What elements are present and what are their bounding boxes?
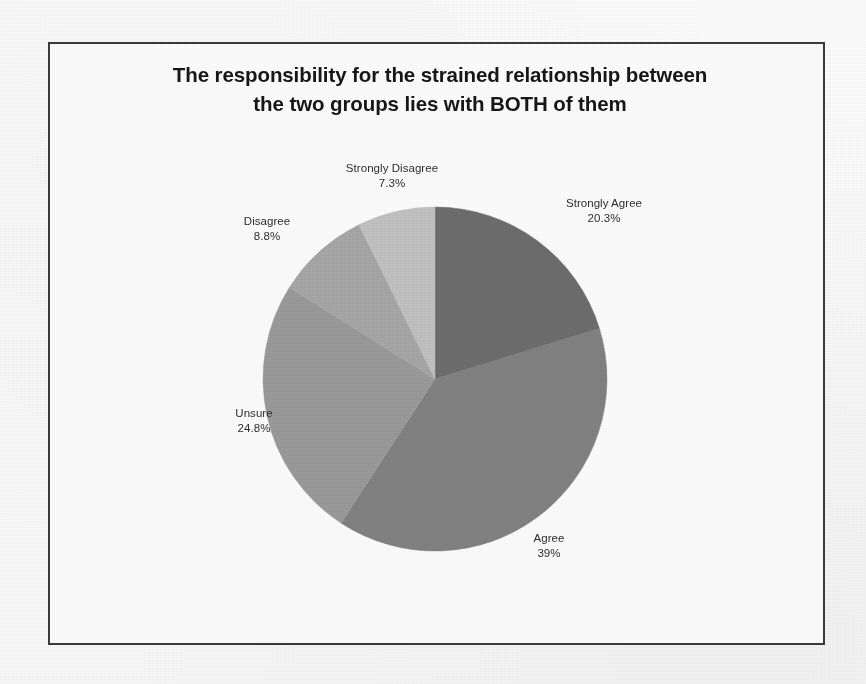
pie-label-strongly-agree-name: Strongly Agree bbox=[539, 196, 669, 211]
pie-label-strongly-disagree: Strongly Disagree 7.3% bbox=[312, 161, 472, 191]
pie-label-unsure: Unsure 24.8% bbox=[189, 406, 319, 436]
chart-frame: The responsibility for the strained rela… bbox=[48, 42, 825, 645]
pie-label-agree-value: 39% bbox=[484, 546, 614, 561]
pie-label-agree: Agree 39% bbox=[484, 531, 614, 561]
pie-plot-area: Strongly Agree 20.3% Agree 39% Unsure 24… bbox=[50, 44, 827, 647]
pie-label-disagree: Disagree 8.8% bbox=[202, 214, 332, 244]
pie-label-agree-name: Agree bbox=[484, 531, 614, 546]
pie-label-unsure-name: Unsure bbox=[189, 406, 319, 421]
pie-label-unsure-value: 24.8% bbox=[189, 421, 319, 436]
chart-page: The responsibility for the strained rela… bbox=[0, 0, 866, 684]
pie-label-strongly-agree: Strongly Agree 20.3% bbox=[539, 196, 669, 226]
pie-label-strongly-agree-value: 20.3% bbox=[539, 211, 669, 226]
pie-slices bbox=[263, 207, 607, 551]
pie-label-strongly-disagree-value: 7.3% bbox=[312, 176, 472, 191]
pie-chart-graphic bbox=[50, 44, 827, 647]
pie-label-disagree-value: 8.8% bbox=[202, 229, 332, 244]
pie-label-disagree-name: Disagree bbox=[202, 214, 332, 229]
pie-label-strongly-disagree-name: Strongly Disagree bbox=[312, 161, 472, 176]
